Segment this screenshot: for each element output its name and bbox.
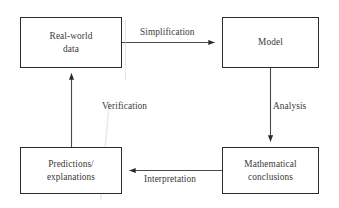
node-mathematical-conclusions: Mathematical conclusions bbox=[222, 147, 319, 194]
edge-label-analysis: Analysis bbox=[273, 101, 306, 112]
node-predictions-explanations: Predictions/ explanations bbox=[20, 147, 122, 194]
node-model: Model bbox=[222, 17, 319, 68]
edge-label-verification: Verification bbox=[102, 101, 147, 112]
node-predictions-explanations-label: Predictions/ explanations bbox=[44, 158, 98, 183]
edge-label-simplification: Simplification bbox=[140, 27, 195, 38]
node-real-world-data-label: Real-world data bbox=[47, 30, 96, 55]
scan-line-artifact bbox=[125, 20, 126, 80]
node-real-world-data: Real-world data bbox=[20, 17, 122, 68]
node-model-label: Model bbox=[255, 36, 286, 49]
edge-label-interpretation: Interpretation bbox=[144, 174, 196, 185]
diagram-canvas: Real-world data Model Mathematical concl… bbox=[0, 0, 339, 208]
node-mathematical-conclusions-label: Mathematical conclusions bbox=[241, 158, 299, 183]
